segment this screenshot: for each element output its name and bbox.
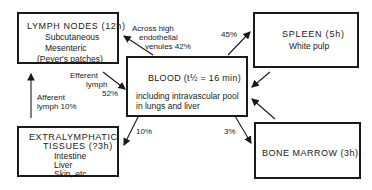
bone-marrow-title: BONE MARROW (3h) [262,148,359,158]
spleen-line-1: White pulp [289,41,329,51]
lymph-nodes-title: LYMPH NODES (12h) [27,21,126,31]
blood-line-1: including intravascular pool [136,91,239,101]
spleen-box: SPLEEN (5h) White pulp [253,12,359,68]
spleen-title: SPLEEN (5h) [282,29,345,39]
blood-line-2: in lungs and liver [136,101,200,111]
lymph-nodes-line-1: Subcutaneous [45,32,99,42]
blood-box: BLOOD (t½ = 16 min) including intravascu… [126,56,248,117]
arrow-spleen-to-blood [252,72,270,87]
arrow-bone-marrow-to-blood [252,99,275,119]
lymph-nodes-line-2: Mesenteric [45,43,87,53]
extralymphatic-box: EXTRALYMPHATIC TISSUES (?3h) Intestine L… [17,126,119,177]
label-lymph-to-blood-3: 52% [102,89,118,99]
extralymphatic-line-3: Skin, etc. [54,169,89,179]
label-blood-to-extra: 10% [136,127,152,137]
lymph-nodes-line-3: (Peyer's patches) [37,54,103,64]
label-blood-to-marrow: 3% [224,127,236,137]
label-extra-to-lymph-2: lymph 10% [37,102,77,112]
bone-marrow-box: BONE MARROW (3h) [254,122,361,179]
lymph-nodes-box: LYMPH NODES (12h) Subcutaneous Mesenteri… [17,12,119,64]
extralymphatic-title-2: TISSUES (?3h) [43,141,113,151]
label-blood-to-lymph-3: venules 42% [145,42,191,52]
label-blood-to-spleen: 45% [221,30,237,40]
blood-title: BLOOD (t½ = 16 min) [148,73,241,83]
